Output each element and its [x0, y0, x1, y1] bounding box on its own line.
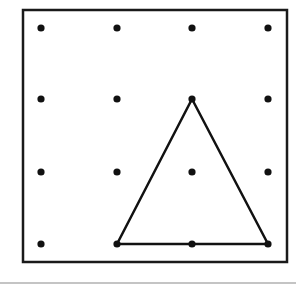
peg-dot — [37, 95, 44, 102]
peg-dot — [264, 24, 271, 31]
peg-dot — [37, 24, 44, 31]
peg-dot — [113, 24, 120, 31]
geoboard-frame — [23, 10, 287, 262]
peg-dot — [113, 95, 120, 102]
peg-dot — [188, 24, 195, 31]
peg-dot — [113, 168, 120, 175]
peg-dot — [37, 168, 44, 175]
peg-dot — [264, 168, 271, 175]
peg-dot — [37, 240, 44, 247]
peg-dot — [188, 168, 195, 175]
peg-dots — [37, 24, 271, 247]
geoboard-diagram — [0, 0, 299, 285]
peg-dot — [264, 95, 271, 102]
